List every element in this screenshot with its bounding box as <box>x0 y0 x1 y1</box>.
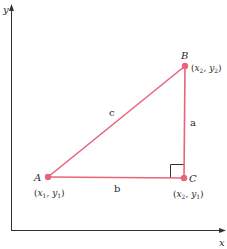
side-a-label: a <box>190 117 196 128</box>
vertex-c-coords: (x2, y1) <box>173 189 204 200</box>
vertex-a-coords: (x1, y1) <box>34 188 65 199</box>
side-c <box>48 66 185 177</box>
side-c-label: c <box>109 107 115 118</box>
x-axis-arrow-icon <box>219 228 226 233</box>
vertex-b-coords: (x2, y2) <box>191 63 222 74</box>
triangle-diagram: y x c a b A B C (x1, y1) (x2, y2) (x2, y… <box>0 0 227 249</box>
vertex-c-label: C <box>189 173 197 184</box>
x-axis-label: x <box>219 237 225 248</box>
vertex-b-label: B <box>180 50 188 61</box>
side-a <box>184 66 185 178</box>
vertex-a-label: A <box>33 172 41 183</box>
vertex-a-point <box>45 174 51 180</box>
side-b-label: b <box>114 183 120 194</box>
y-axis-arrow-icon <box>9 4 14 11</box>
vertex-b-point <box>182 63 188 69</box>
vertex-c-point <box>181 175 187 181</box>
y-axis-label: y <box>2 4 9 15</box>
side-b <box>48 177 184 178</box>
triangle <box>48 66 185 178</box>
